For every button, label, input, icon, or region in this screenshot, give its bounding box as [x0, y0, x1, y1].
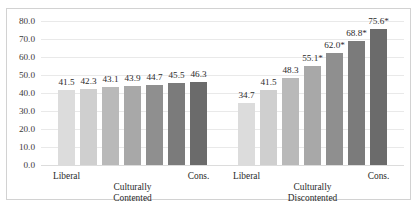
category-label-cons: Cons.	[174, 171, 223, 182]
group-name-label: CulturallyContented	[88, 182, 178, 204]
bar	[146, 85, 163, 165]
gridline	[41, 21, 404, 22]
bar-value-label: 55.1*	[298, 54, 327, 63]
y-axis-tick-label: 60.0	[0, 53, 35, 62]
bar	[102, 87, 119, 165]
bar-value-label: 75.6*	[364, 17, 393, 26]
group-name-line1: Culturally	[293, 182, 331, 192]
gridline	[41, 39, 404, 40]
category-label-cons: Cons.	[354, 171, 403, 182]
bar	[260, 90, 277, 165]
bar	[190, 82, 207, 165]
bar	[304, 66, 321, 165]
y-axis-tick-label: 20.0	[0, 125, 35, 134]
bar-value-label: 41.5	[254, 78, 283, 87]
bar-value-label: 48.3	[276, 66, 305, 75]
y-axis-tick-label: 50.0	[0, 71, 35, 80]
y-axis-tick-label: 80.0	[0, 17, 35, 26]
gridline	[41, 165, 404, 166]
y-axis-tick-label: 0.0	[0, 161, 35, 170]
bar	[168, 83, 185, 165]
y-axis-tick-label: 30.0	[0, 107, 35, 116]
category-label-liberal: Liberal	[42, 171, 91, 182]
bar	[348, 41, 365, 165]
bar	[370, 29, 387, 165]
bar	[326, 53, 343, 165]
bar	[80, 89, 97, 165]
bar	[238, 103, 255, 165]
group-name-line1: Culturally	[113, 182, 151, 192]
bar-value-label: 68.8*	[342, 29, 371, 38]
bar	[282, 78, 299, 165]
group-name-line2: Contented	[88, 193, 178, 204]
group-name-label: CulturallyDiscontented	[268, 182, 358, 204]
category-label-liberal: Liberal	[222, 171, 271, 182]
plot-area	[41, 21, 404, 165]
bar	[124, 86, 141, 165]
bar-value-label: 46.3	[184, 70, 213, 79]
group-name-line2: Discontented	[268, 193, 358, 204]
y-axis-tick-label: 40.0	[0, 89, 35, 98]
bar-chart-figure: 80.070.060.050.040.030.020.010.00.041.54…	[0, 0, 418, 207]
bar	[58, 90, 75, 165]
bar-value-label: 62.0*	[320, 41, 349, 50]
bar-value-label: 34.7	[232, 91, 261, 100]
y-axis-tick-label: 10.0	[0, 143, 35, 152]
y-axis-tick-label: 70.0	[0, 35, 35, 44]
